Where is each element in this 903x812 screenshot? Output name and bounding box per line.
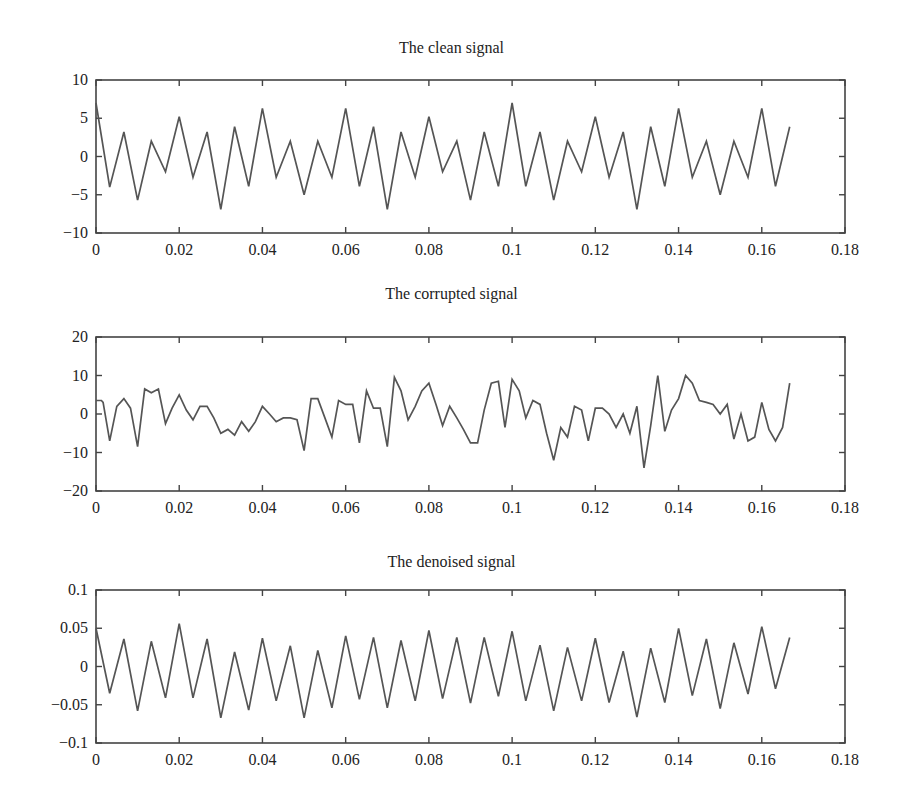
x-tick-label: 0.14: [665, 751, 693, 768]
y-tick-label: 0: [80, 658, 88, 675]
x-tick-label: 0.06: [332, 751, 360, 768]
plot-area-frame: [96, 590, 845, 743]
denoised-signal-panel: The denoised signal 00.020.040.060.080.1…: [0, 0, 903, 812]
y-tick-label: −0.05: [51, 696, 88, 713]
x-tick-label: 0.02: [165, 751, 193, 768]
denoised-signal-line: [96, 624, 790, 718]
x-tick-label: 0.12: [581, 751, 609, 768]
x-tick-label: 0: [92, 751, 100, 768]
x-tick-label: 0.04: [248, 751, 276, 768]
y-tick-label: 0.1: [68, 581, 88, 598]
x-tick-label: 0.08: [415, 751, 443, 768]
x-tick-label: 0.16: [748, 751, 776, 768]
y-tick-label: 0.05: [60, 619, 88, 636]
x-tick-label: 0.1: [502, 751, 522, 768]
x-tick-label: 0.18: [831, 751, 859, 768]
denoised-signal-chart: 00.020.040.060.080.10.120.140.160.180.10…: [0, 0, 903, 812]
y-tick-label: −0.1: [59, 734, 88, 751]
